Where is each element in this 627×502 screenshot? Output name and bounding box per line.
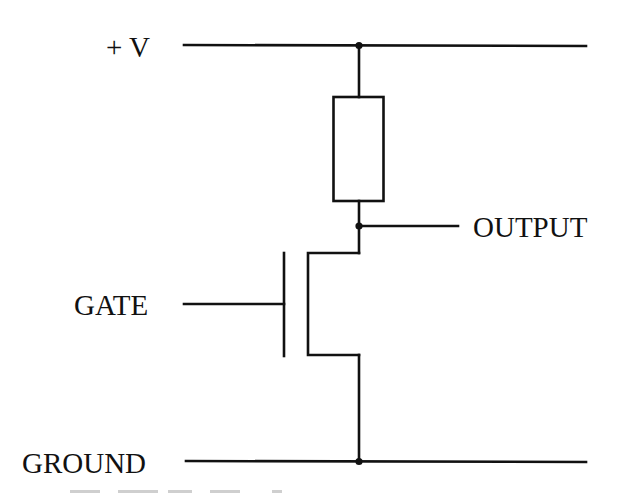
schematic-drawing xyxy=(0,0,627,502)
supply-junction-dot xyxy=(355,42,362,49)
ground-rail xyxy=(186,461,586,462)
gate-label: GATE xyxy=(74,291,148,320)
ground-label: GROUND xyxy=(22,449,146,478)
supply-label: + V xyxy=(106,33,150,62)
circuit-diagram: + V OUTPUT GATE GROUND xyxy=(0,0,627,502)
output-label: OUTPUT xyxy=(473,213,587,242)
supply-rail xyxy=(184,45,586,46)
resistor xyxy=(334,97,384,201)
mosfet-drain xyxy=(308,253,359,355)
figure-caption-cropped xyxy=(60,490,380,502)
output-junction-dot xyxy=(355,222,362,229)
ground-junction-dot xyxy=(355,458,362,465)
